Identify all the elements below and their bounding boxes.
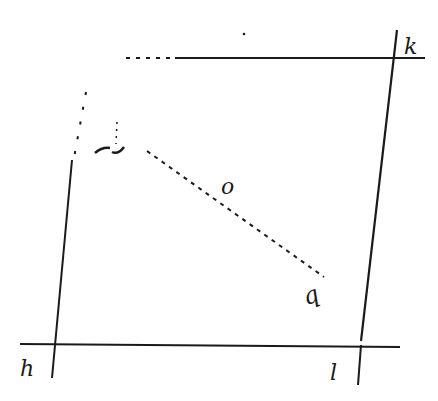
label-o: o [221, 174, 234, 199]
label-q: q [299, 280, 323, 312]
label-l: l [330, 360, 337, 385]
label-h: h [20, 356, 34, 381]
label-k: k [404, 34, 417, 59]
l-tick [358, 345, 361, 385]
right-line [361, 30, 397, 341]
p-dashes [116, 122, 117, 144]
bottom-line [20, 344, 400, 347]
point-p-mark [95, 147, 124, 153]
left-line-dashed [74, 92, 86, 158]
dashed-segment [147, 151, 324, 277]
stray-dot [243, 33, 246, 36]
diagram-canvas: k h l o q [0, 0, 438, 401]
